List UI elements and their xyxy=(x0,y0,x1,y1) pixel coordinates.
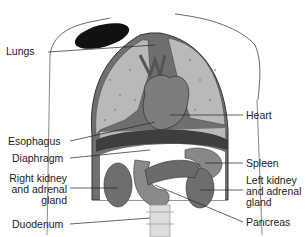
label-pancreas: Pancreas xyxy=(246,217,290,228)
label-spleen: Spleen xyxy=(246,158,279,169)
label-left-kidney: Left kidney and adrenal gland xyxy=(246,175,301,208)
label-line: gland xyxy=(5,195,67,206)
label-lungs: Lungs xyxy=(6,46,35,57)
label-right-kidney: Right kidney and adrenal gland xyxy=(5,173,67,206)
label-esophagus: Esophagus xyxy=(8,136,61,147)
label-diaphragm: Diaphragm xyxy=(12,153,63,164)
label-line: gland xyxy=(246,197,301,208)
label-duodenum: Duodenum xyxy=(12,219,63,230)
spine xyxy=(150,205,170,237)
right-kidney xyxy=(104,163,132,207)
label-heart: Heart xyxy=(246,110,272,121)
